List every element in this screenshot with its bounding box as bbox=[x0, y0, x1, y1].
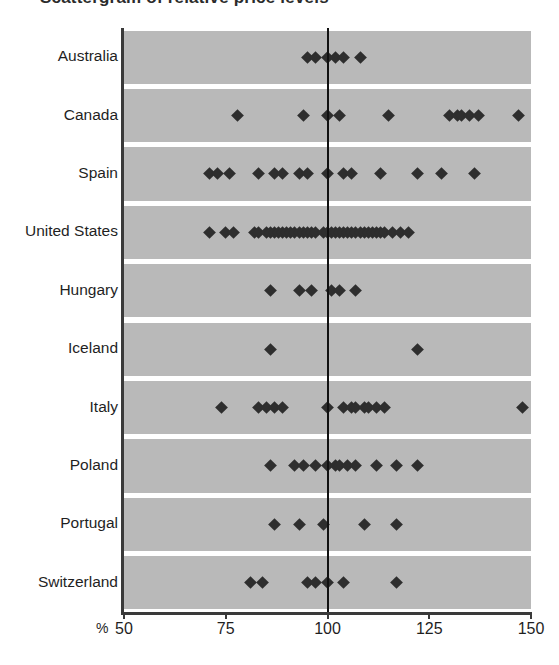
data-point bbox=[264, 343, 277, 356]
data-point bbox=[276, 401, 289, 414]
category-label-italy: Italy bbox=[0, 398, 118, 416]
data-point bbox=[337, 576, 350, 589]
data-point bbox=[337, 51, 350, 64]
data-point bbox=[293, 518, 306, 531]
data-point bbox=[370, 460, 383, 473]
data-point bbox=[354, 51, 367, 64]
data-point bbox=[309, 460, 322, 473]
data-point bbox=[411, 460, 424, 473]
data-point bbox=[472, 109, 485, 122]
category-label-portugal: Portugal bbox=[0, 514, 118, 532]
reference-line-100 bbox=[327, 28, 329, 612]
category-label-poland: Poland bbox=[0, 456, 118, 474]
plot-area bbox=[124, 28, 531, 612]
data-point bbox=[516, 401, 529, 414]
data-point bbox=[390, 460, 403, 473]
data-point bbox=[264, 284, 277, 297]
x-tick-mark-75 bbox=[225, 612, 227, 619]
data-point bbox=[252, 168, 265, 181]
data-point bbox=[435, 168, 448, 181]
data-point bbox=[268, 518, 281, 531]
category-label-switzerland: Switzerland bbox=[0, 573, 118, 591]
x-tick-label-100: 100 bbox=[314, 620, 341, 638]
x-tick-mark-100 bbox=[327, 612, 329, 619]
category-axis-labels: AustraliaCanadaSpainUnited StatesHungary… bbox=[0, 28, 118, 612]
data-point bbox=[203, 226, 216, 239]
data-point bbox=[350, 460, 363, 473]
category-label-spain: Spain bbox=[0, 164, 118, 182]
data-point bbox=[403, 226, 416, 239]
data-point bbox=[276, 168, 289, 181]
data-point bbox=[297, 460, 310, 473]
data-point bbox=[297, 109, 310, 122]
x-tick-label-150: 150 bbox=[518, 620, 545, 638]
data-point bbox=[264, 460, 277, 473]
data-point bbox=[382, 109, 395, 122]
data-point bbox=[293, 284, 306, 297]
data-point bbox=[358, 518, 371, 531]
category-label-australia: Australia bbox=[0, 47, 118, 65]
data-point bbox=[512, 109, 525, 122]
x-axis-unit-label: % bbox=[96, 620, 108, 636]
data-point bbox=[346, 168, 359, 181]
data-point bbox=[244, 576, 257, 589]
data-point bbox=[305, 284, 318, 297]
dot-plot-chart: Scattergram of relative price levels Aus… bbox=[0, 0, 559, 665]
data-point bbox=[468, 168, 481, 181]
chart-title: Scattergram of relative price levels bbox=[40, 0, 540, 6]
data-point bbox=[228, 226, 241, 239]
category-label-canada: Canada bbox=[0, 106, 118, 124]
data-point bbox=[211, 168, 224, 181]
data-point bbox=[223, 168, 236, 181]
data-point bbox=[374, 168, 387, 181]
x-tick-mark-50 bbox=[123, 612, 125, 619]
x-tick-label-50: 50 bbox=[115, 620, 133, 638]
category-label-hungary: Hungary bbox=[0, 281, 118, 299]
data-point bbox=[333, 284, 346, 297]
data-point bbox=[390, 576, 403, 589]
data-point bbox=[309, 51, 322, 64]
data-point bbox=[378, 401, 391, 414]
data-point bbox=[309, 576, 322, 589]
data-point bbox=[390, 518, 403, 531]
data-point bbox=[215, 401, 228, 414]
data-point bbox=[411, 343, 424, 356]
x-axis-tick-labels: 5075100125150 bbox=[124, 620, 544, 644]
data-point bbox=[350, 284, 363, 297]
x-tick-mark-125 bbox=[428, 612, 430, 619]
data-point bbox=[411, 168, 424, 181]
data-point bbox=[333, 109, 346, 122]
x-tick-label-125: 125 bbox=[416, 620, 443, 638]
data-point bbox=[256, 576, 269, 589]
x-tick-label-75: 75 bbox=[217, 620, 235, 638]
x-tick-mark-150 bbox=[530, 612, 532, 619]
category-label-united-states: United States bbox=[0, 222, 118, 240]
data-point bbox=[232, 109, 245, 122]
category-label-iceland: Iceland bbox=[0, 339, 118, 357]
